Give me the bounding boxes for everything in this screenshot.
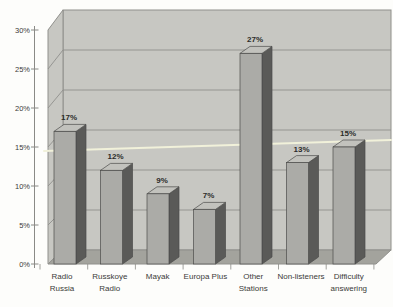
bar-russkoye-radio: [101, 170, 123, 264]
chart-canvas: 0%5%10%15%20%25%30%17%12%9%7%27%13%15%Ra…: [0, 0, 393, 307]
bar-non-listeners: [287, 163, 309, 264]
y-tick-label-10%: 10%: [15, 182, 30, 191]
x-label-mayak: Mayak: [146, 272, 171, 281]
bar-side-radio-russia: [76, 124, 86, 264]
x-label-non-listeners: Non-listeners: [277, 272, 324, 281]
bar-chart-figure: 0%5%10%15%20%25%30%17%12%9%7%27%13%15%Ra…: [0, 0, 393, 307]
y-tick-label-30%: 30%: [15, 26, 30, 35]
x-label-other-stations: Stations: [239, 284, 268, 293]
bar-side-other-stations: [262, 46, 272, 264]
x-label-other-stations: Other: [243, 272, 263, 281]
bar-mayak: [147, 194, 169, 264]
x-label-russkoye-radio: Radio: [99, 284, 120, 293]
bar-side-mayak: [169, 187, 179, 264]
bar-side-europa-plus: [216, 202, 226, 264]
bar-difficulty-answering: [333, 147, 355, 264]
y-tick-label-5%: 5%: [19, 221, 30, 230]
bar-europa-plus: [194, 209, 216, 264]
data-label-russkoye-radio: 12%: [107, 152, 123, 161]
x-label-radio-russia: Radio: [52, 272, 73, 281]
data-label-radio-russia: 17%: [61, 113, 77, 122]
bar-side-difficulty-answering: [355, 140, 365, 264]
x-label-difficulty-answering: answering: [331, 284, 367, 293]
x-label-radio-russia: Russia: [50, 284, 75, 293]
bar-radio-russia: [54, 131, 76, 264]
data-label-europa-plus: 7%: [203, 191, 215, 200]
bar-side-russkoye-radio: [123, 163, 133, 264]
x-label-europa-plus: Europa Plus: [184, 272, 228, 281]
bar-side-non-listeners: [309, 156, 319, 264]
data-label-difficulty-answering: 15%: [340, 129, 356, 138]
y-tick-label-20%: 20%: [15, 104, 30, 113]
data-label-other-stations: 27%: [247, 35, 263, 44]
y-tick-label-0%: 0%: [19, 260, 30, 269]
data-label-non-listeners: 13%: [293, 145, 309, 154]
data-label-mayak: 9%: [156, 176, 168, 185]
y-tick-label-25%: 25%: [15, 65, 30, 74]
x-label-difficulty-answering: Difficulty: [334, 272, 364, 281]
bar-other-stations: [240, 53, 262, 264]
y-tick-label-15%: 15%: [15, 143, 30, 152]
x-label-russkoye-radio: Russkoye: [92, 272, 128, 281]
